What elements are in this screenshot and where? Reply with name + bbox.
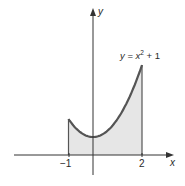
y-axis-label: y [97, 6, 104, 17]
shaded-area [69, 65, 143, 155]
y-axis-arrow-icon [90, 8, 96, 16]
tick-label-2: 2 [139, 158, 145, 169]
x-axis-label: x [169, 157, 176, 168]
graph-canvas: y x −1 2 y = x2 + 1 [0, 0, 185, 186]
function-label: y = x2 + 1 [119, 49, 160, 61]
tick-label-neg1: −1 [60, 158, 72, 169]
